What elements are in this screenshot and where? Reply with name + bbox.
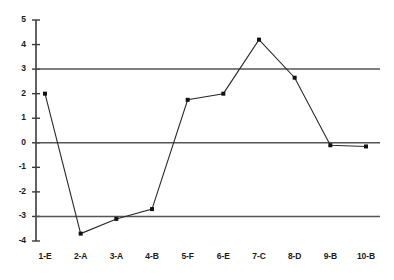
x-axis-tick-label: 9-B: [310, 252, 350, 261]
x-axis-tick-label: 5-F: [168, 252, 208, 261]
x-axis-tick-label: 6-E: [203, 252, 243, 261]
data-point-marker: [186, 98, 190, 102]
x-axis-tick-label: 1-E: [25, 252, 65, 261]
y-axis-tick-label: 1: [4, 113, 26, 122]
y-axis-tick-label: -1: [4, 162, 26, 171]
chart-plot-area: [0, 0, 394, 280]
x-axis-tick-label: 2-A: [61, 252, 101, 261]
data-point-marker: [79, 232, 83, 236]
x-axis-tick-label: 4-B: [132, 252, 172, 261]
y-axis-tick-label: 2: [4, 89, 26, 98]
data-point-markers: [43, 38, 368, 236]
data-point-marker: [328, 143, 332, 147]
x-axis-tick-label: 3-A: [96, 252, 136, 261]
data-point-marker: [150, 207, 154, 211]
x-axis-tick-label: 8-D: [275, 252, 315, 261]
data-point-marker: [293, 76, 297, 80]
x-axis-tick-label: 10-B: [346, 252, 386, 261]
y-axis-tick-label: -4: [4, 236, 26, 245]
y-axis-tick-label: 3: [4, 64, 26, 73]
data-point-marker: [257, 38, 261, 42]
reference-lines-group: [36, 69, 380, 216]
y-axis-tick-label: -3: [4, 211, 26, 220]
data-point-marker: [43, 92, 47, 96]
y-axis-tick-label: 4: [4, 40, 26, 49]
y-axis-tick-label: 5: [4, 15, 26, 24]
chart-container: 543210-1-2-3-4 1-E2-A3-A4-B5-F6-E7-C8-D9…: [0, 0, 394, 280]
data-point-marker: [114, 217, 118, 221]
y-axis-tick-label: 0: [4, 138, 26, 147]
y-axis-tick-label: -2: [4, 187, 26, 196]
data-point-marker: [364, 144, 368, 148]
x-axis-tick-label: 7-C: [239, 252, 279, 261]
data-point-marker: [221, 92, 225, 96]
